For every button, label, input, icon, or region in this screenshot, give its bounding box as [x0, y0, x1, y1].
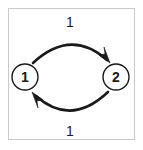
- node-2-label: 2: [103, 70, 129, 84]
- edge-bottom-arrowhead-icon: [32, 92, 43, 108]
- node-1-label: 1: [12, 70, 38, 84]
- diagram-root: 1 2 1 1: [0, 0, 143, 150]
- edge-bottom-label: 1: [60, 124, 80, 138]
- edge-bottom-arrow: [32, 92, 108, 111]
- edge-top-arrowhead-icon: [99, 47, 110, 63]
- edge-bottom-arc: [36, 92, 108, 111]
- edge-top-arrow: [33, 45, 110, 63]
- edge-top-label: 1: [60, 15, 80, 29]
- edge-top-arc: [33, 45, 107, 63]
